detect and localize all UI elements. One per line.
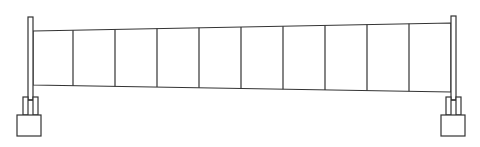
left-post — [28, 17, 33, 100]
beam-diagram — [0, 0, 480, 147]
left-clamp-outer-left — [23, 97, 28, 115]
left-clamp-outer-right — [33, 97, 38, 115]
right-pedestal — [441, 115, 465, 136]
beam-outline — [33, 23, 451, 92]
right-clamp-outer-right — [456, 97, 461, 115]
right-clamp-outer-left — [446, 97, 451, 115]
left-pedestal — [17, 115, 41, 136]
right-post — [451, 16, 456, 100]
